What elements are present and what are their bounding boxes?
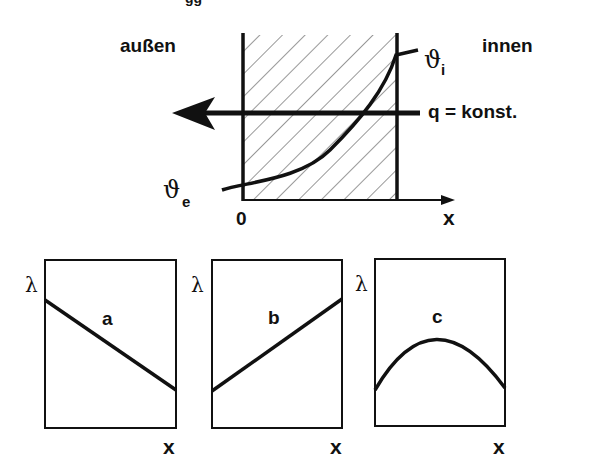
lambda-label: λ	[191, 273, 204, 297]
panel-c: λ c x	[355, 259, 505, 458]
svg-text:e: e	[182, 193, 190, 210]
label-outside: außen	[120, 35, 176, 56]
x-label: x	[163, 435, 175, 458]
svg-text:i: i	[441, 61, 445, 78]
x-label: x	[493, 435, 505, 458]
panel-label: c	[432, 306, 443, 327]
theta-outer-label: ϑ e	[163, 176, 190, 210]
panel-b: λ b x	[191, 260, 342, 458]
x-label: x	[330, 435, 342, 458]
label-inside: innen	[482, 35, 533, 56]
panel-label: b	[268, 307, 280, 328]
lambda-label: λ	[355, 272, 368, 296]
wall	[243, 33, 397, 201]
panel-label: a	[102, 308, 113, 329]
x-axis-label: x	[443, 206, 455, 229]
diagram-canvas: gg außen innen q = konst. ϑ i ϑ e 0 x λ …	[0, 0, 613, 470]
svg-text:ϑ: ϑ	[163, 176, 180, 204]
cropped-top-text: gg	[185, 0, 202, 6]
heat-flux-label: q = konst.	[428, 101, 517, 122]
lambda-label: λ	[25, 273, 38, 297]
theta-inner-label: ϑ i	[424, 46, 445, 78]
panel-a: λ a x	[25, 260, 176, 458]
svg-text:ϑ: ϑ	[424, 46, 441, 74]
origin-label: 0	[236, 208, 247, 229]
